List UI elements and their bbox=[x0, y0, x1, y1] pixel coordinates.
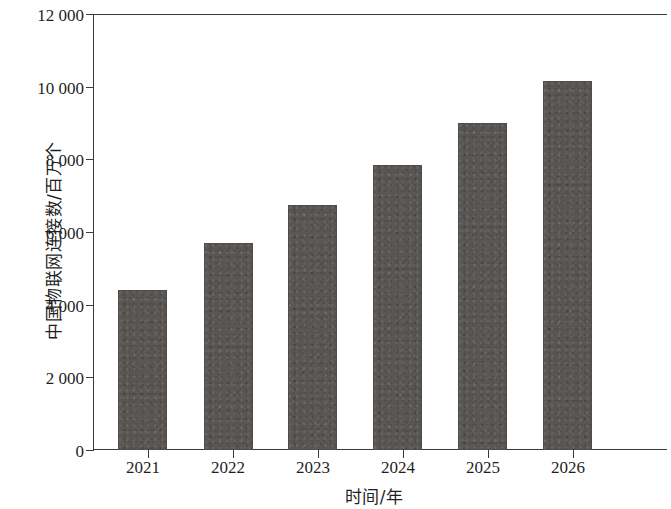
x-axis-title: 时间/年 bbox=[0, 483, 671, 508]
y-tick-label-0: 0 bbox=[0, 443, 84, 460]
y-tick-label-12000: 12 000 bbox=[0, 7, 84, 24]
y-tick-label-8000: 8 000 bbox=[0, 152, 84, 169]
y-tick-label-4000: 4 000 bbox=[0, 298, 84, 315]
y-tick-mark-0 bbox=[86, 450, 94, 451]
bar-2024 bbox=[373, 165, 422, 450]
x-tick-label-2022: 2022 bbox=[183, 457, 273, 480]
x-tick-label-2023: 2023 bbox=[268, 457, 358, 480]
bar-2021 bbox=[118, 290, 167, 450]
bar-2022 bbox=[204, 243, 253, 450]
bar-2026 bbox=[543, 81, 592, 450]
x-tick-label-2021: 2021 bbox=[98, 457, 188, 480]
y-tick-label-2000: 2 000 bbox=[0, 370, 84, 387]
bar-2023 bbox=[288, 205, 337, 450]
bar-2025 bbox=[458, 123, 507, 450]
x-tick-label-2026: 2026 bbox=[523, 457, 613, 480]
x-tick-label-2024: 2024 bbox=[353, 457, 443, 480]
y-tick-label-6000: 6 000 bbox=[0, 225, 84, 242]
x-tick-label-2025: 2025 bbox=[438, 457, 528, 480]
y-tick-label-10000: 10 000 bbox=[0, 80, 84, 97]
